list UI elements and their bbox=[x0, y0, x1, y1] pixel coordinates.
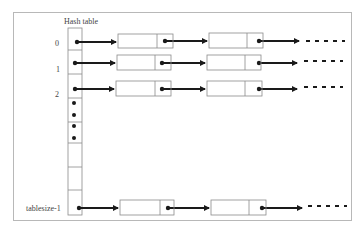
hash-table-column bbox=[68, 28, 82, 215]
list-nodes bbox=[116, 33, 266, 215]
continuation-dashes bbox=[304, 41, 347, 206]
hash-table-diagram bbox=[0, 0, 364, 234]
